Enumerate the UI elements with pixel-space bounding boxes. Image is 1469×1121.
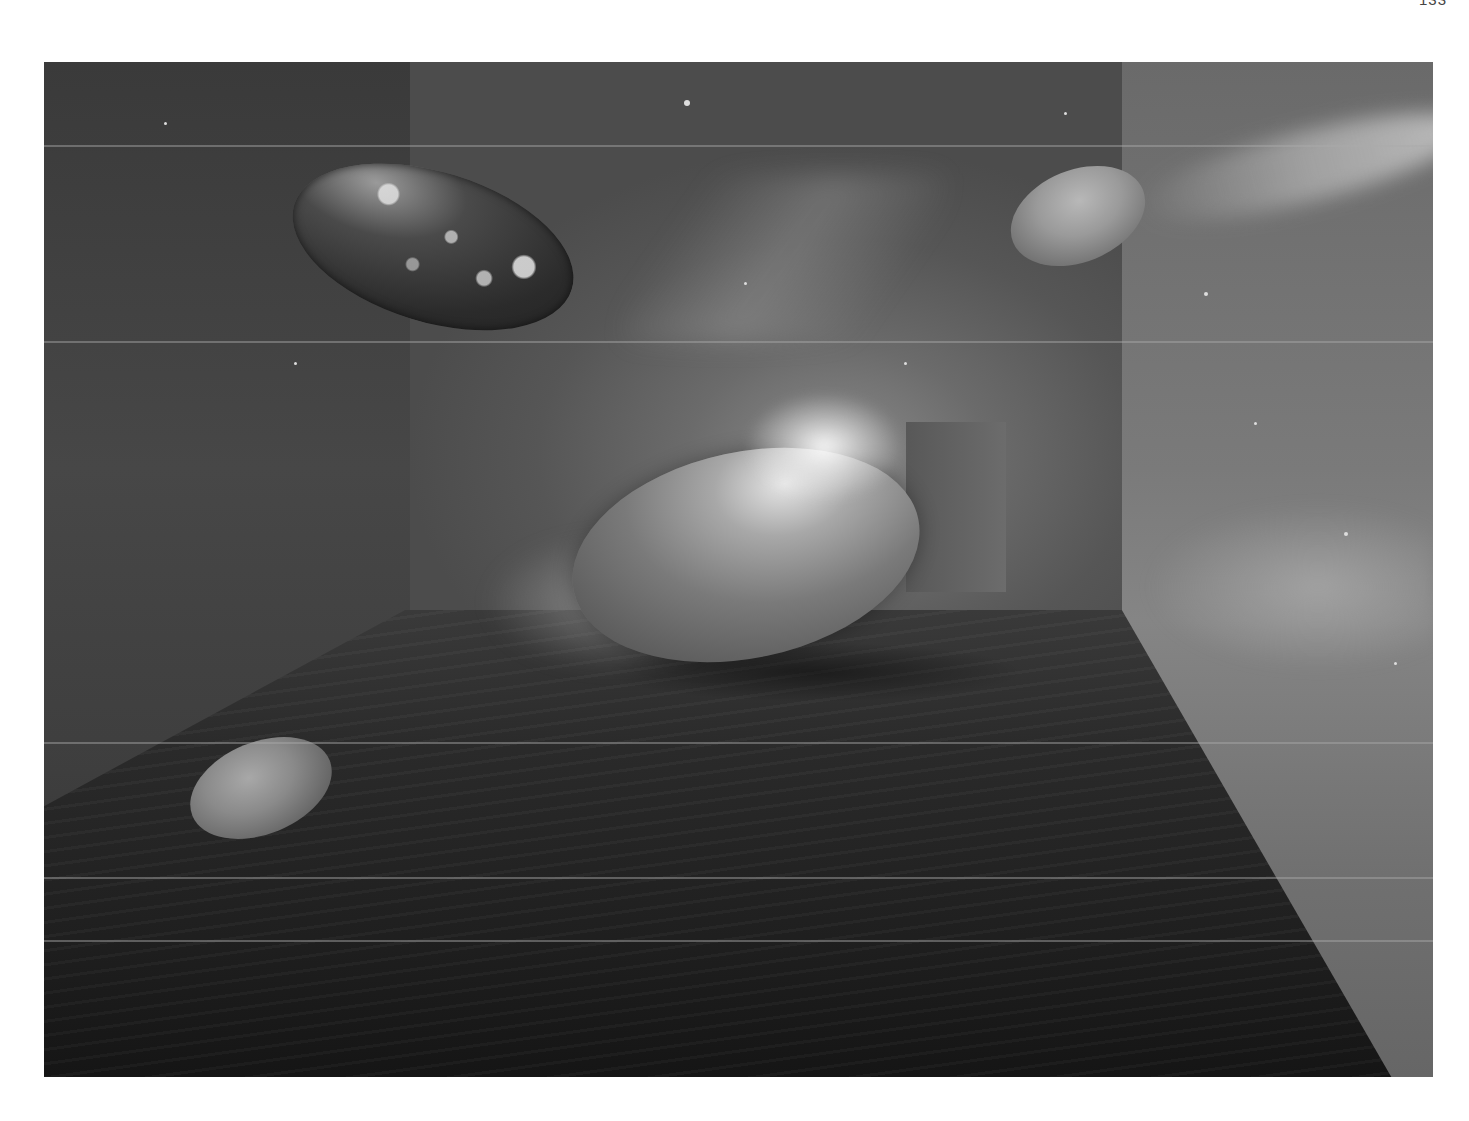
milky-way-band [1144, 502, 1433, 672]
scanline [44, 940, 1433, 942]
page-number: 133 [1419, 0, 1447, 8]
scanline [44, 742, 1433, 744]
space-room-artwork [44, 62, 1433, 1077]
back-doorway [906, 422, 1006, 592]
planet-flare [744, 392, 904, 502]
scanline [44, 341, 1433, 343]
scanline [44, 877, 1433, 879]
scanline [44, 145, 1433, 147]
